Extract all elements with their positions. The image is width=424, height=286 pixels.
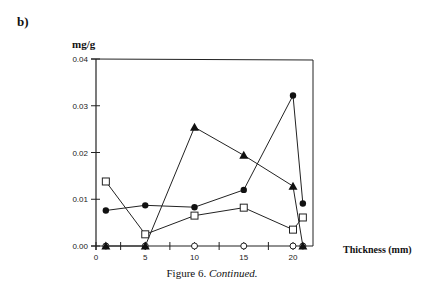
open-square-marker xyxy=(240,204,247,211)
filled-circle-marker xyxy=(142,202,148,208)
filled-circle-marker xyxy=(241,187,247,193)
x-tick-label: 0 xyxy=(94,253,99,262)
y-tick-label: 0.01 xyxy=(72,195,88,204)
filled-triangle-marker xyxy=(190,123,199,131)
filled-circle-marker xyxy=(290,92,296,98)
x-tick-label: 5 xyxy=(143,253,148,262)
y-tick-label: 0.04 xyxy=(72,55,88,64)
filled-circle-marker xyxy=(191,204,197,210)
top-border xyxy=(91,59,313,60)
open-square-line xyxy=(106,181,303,234)
open-square-marker xyxy=(142,231,149,238)
filled-circle-line xyxy=(106,95,303,210)
x-tick-label: 15 xyxy=(239,253,248,262)
filled-circle-marker xyxy=(300,200,306,206)
open-square-marker xyxy=(299,214,306,221)
filled-triangle-line xyxy=(106,127,303,246)
open-square-marker xyxy=(191,212,198,219)
filled-triangle-marker xyxy=(239,151,248,159)
open-square-marker xyxy=(102,178,109,185)
y-tick-label: 0.02 xyxy=(72,149,88,158)
x-tick-label: 20 xyxy=(289,253,298,262)
open-square-marker xyxy=(290,226,297,233)
filled-circle-marker xyxy=(103,207,109,213)
x-tick-label: 10 xyxy=(190,253,199,262)
filled-triangle-marker xyxy=(289,182,298,190)
open-diamond-marker xyxy=(241,243,247,249)
y-tick-label: 0.03 xyxy=(72,102,88,111)
line-chart: 0.000.010.020.030.0405101520 xyxy=(0,0,424,286)
open-diamond-marker xyxy=(192,243,198,249)
y-tick-label: 0.00 xyxy=(72,242,88,251)
open-diamond-marker xyxy=(290,243,296,249)
